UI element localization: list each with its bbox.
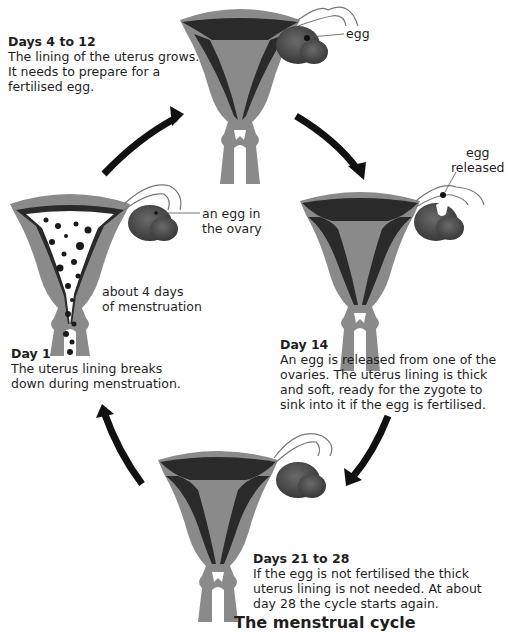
stage-day-14-text: Day 14 An egg is released from one of th… [280, 337, 496, 412]
stage-heading: Day 1 [11, 346, 181, 361]
label-line: egg [451, 145, 505, 160]
stage-heading: Days 21 to 28 [253, 551, 482, 566]
stage-line: ovaries. The uterus lining is thick [280, 367, 496, 382]
stage-line: down during menstruation. [11, 376, 181, 391]
stage-line: day 28 the cycle starts again. [253, 596, 482, 611]
stage-line: An egg is released from one of the [280, 352, 496, 367]
label-line: released [451, 160, 505, 175]
stage-line: The uterus lining breaks [11, 361, 181, 376]
label-egg: egg [346, 26, 370, 41]
stage-line: If the egg is not fertilised the thick [253, 566, 482, 581]
label-line: the ovary [202, 221, 262, 236]
arrow-up-left-icon [96, 404, 114, 418]
label-egg-released: egg released [451, 145, 505, 175]
stage-line: uterus lining is not needed. At about [253, 581, 482, 596]
stage-line: sink into it if the egg is fertilised. [280, 397, 496, 412]
stage-line: It needs to prepare for a [8, 64, 199, 79]
arrow-up-right-icon [170, 106, 184, 126]
label-line: of menstruation [102, 299, 202, 314]
stage-heading: Days 4 to 12 [8, 34, 199, 49]
label-line: an egg in [202, 206, 262, 221]
stage-line: fertilised egg. [8, 79, 199, 94]
stage-days-21-28-text: Days 21 to 28 If the egg is not fertilis… [253, 551, 482, 611]
stage-day-1-text: Day 1 The uterus lining breaks down duri… [11, 346, 181, 391]
diagram-caption: The menstrual cycle [234, 614, 416, 632]
label-menstruation-duration: about 4 days of menstruation [102, 284, 202, 314]
egg-icon [440, 192, 446, 198]
label-line: about 4 days [102, 284, 202, 299]
stage-days-4-12-text: Days 4 to 12 The lining of the uterus gr… [8, 34, 199, 94]
stage-line: and soft, ready for the zygote to [280, 382, 496, 397]
stage-line: The lining of the uterus grows. [8, 49, 199, 64]
uterus-days-4-12 [180, 7, 358, 184]
stage-heading: Day 14 [280, 337, 496, 352]
label-egg-in-ovary: an egg in the ovary [202, 206, 262, 236]
